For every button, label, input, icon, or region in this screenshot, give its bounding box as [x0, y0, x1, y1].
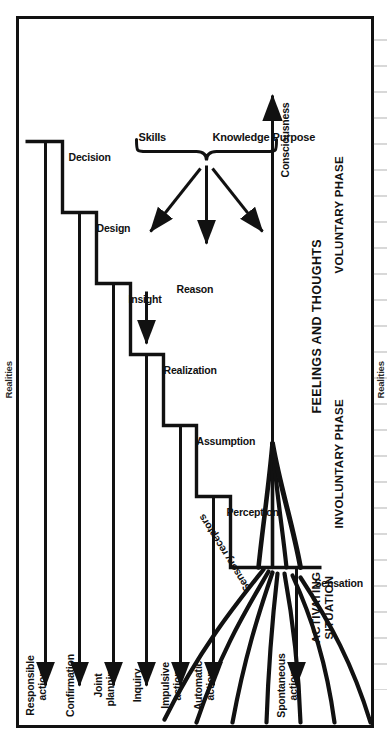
phase-heading-involuntary: INVOLUNTARY PHASE	[333, 399, 345, 528]
action-label-joint-planning-line2: planning	[104, 627, 115, 743]
action-label-responsible-action-line1: Responsible	[24, 627, 35, 743]
step-label-decision: Decision	[68, 151, 110, 162]
edge-label-bottom: Realities	[375, 361, 385, 398]
resource-label-knowledge: Knowledge	[212, 131, 269, 142]
diagram-stage: Realities Realities ACTIVATING SITUATION…	[0, 0, 389, 743]
zone-label-feelings-and-thoughts: FEELINGS AND THOUGHTS	[310, 238, 323, 413]
action-label-impulsive-action-line2: action	[171, 627, 182, 743]
action-label-automatic-action-line2: action	[204, 627, 215, 743]
step-label-insight: Insight	[128, 293, 161, 304]
step-label-design: Design	[96, 222, 130, 233]
action-label-confirmation: Confirmation	[64, 627, 75, 743]
action-label-spontaneous-action-line2: action	[287, 627, 298, 743]
input-label-reason: Reason	[176, 283, 213, 294]
action-label-inquiry: Inquiry	[131, 627, 142, 743]
resource-label-skills: Skills	[138, 131, 166, 142]
action-label-spontaneous-action-line1: Spontaneous	[275, 627, 286, 743]
step-label-perception: Perception	[226, 506, 278, 517]
diagram-text-layer: Realities Realities ACTIVATING SITUATION…	[0, 0, 389, 743]
action-label-impulsive-action-line1: Impulsive	[159, 627, 170, 743]
phase-heading-voluntary: VOLUNTARY PHASE	[333, 156, 345, 273]
phase-heading-activating-situation-line1: ACTIVATING	[310, 547, 322, 667]
figure-page: Realities Realities ACTIVATING SITUATION…	[0, 0, 389, 743]
action-label-automatic-action-line1: Automatic	[192, 627, 203, 743]
step-label-sensation: Sensation	[314, 577, 362, 588]
resource-label-purpose: Purpose	[272, 131, 315, 142]
phase-heading-activating-situation-line2: SITUATION	[323, 547, 335, 667]
action-label-responsible-action-line2: action	[36, 627, 47, 743]
step-label-assumption: Assumption	[196, 435, 255, 446]
step-label-realization: Realization	[163, 364, 216, 375]
edge-label-top: Realities	[3, 361, 13, 398]
action-label-joint-planning-line1: Joint	[92, 627, 103, 743]
sensory-receptors-label: Sensory receptors	[196, 512, 252, 593]
